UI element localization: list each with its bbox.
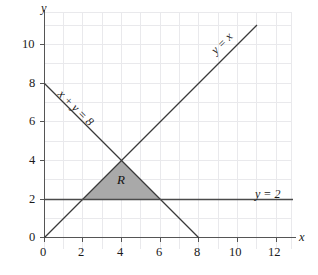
axis-ticks <box>40 45 277 243</box>
y-tick-label-8: 8 <box>29 77 35 90</box>
y-tick-label-0: 0 <box>29 231 35 244</box>
y-axis-label: y <box>41 2 47 15</box>
x-tick-label-12: 12 <box>268 246 281 259</box>
x-tick-label-2: 2 <box>78 246 84 259</box>
y-tick-label-4: 4 <box>29 154 35 167</box>
y-tick-label-2: 2 <box>29 193 35 206</box>
x-tick-label-6: 6 <box>156 246 162 259</box>
graph-figure: 0 2 4 6 8 10 12 0 2 4 6 8 10 x y y = x x… <box>0 0 318 275</box>
line-y-equals-x <box>45 25 258 238</box>
x-axis-label: x <box>299 231 305 244</box>
line-label-y-equals-2: y = 2 <box>255 188 280 200</box>
region-label-R: R <box>117 173 125 186</box>
y-tick-label-10: 10 <box>22 38 35 51</box>
x-tick-label-10: 10 <box>229 246 242 259</box>
x-tick-label-8: 8 <box>194 246 200 259</box>
grid-lines <box>45 13 292 249</box>
x-tick-label-4: 4 <box>117 246 123 259</box>
plot-canvas <box>0 0 318 275</box>
y-tick-label-6: 6 <box>29 115 35 128</box>
plotted-lines <box>45 25 294 238</box>
x-tick-label-0: 0 <box>40 246 46 259</box>
